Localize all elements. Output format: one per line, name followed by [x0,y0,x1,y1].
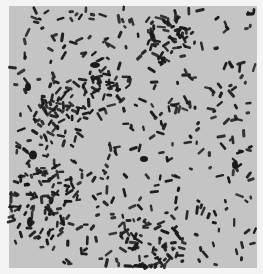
bacterium-rod [9,195,12,204]
bacterium-rod [44,209,47,215]
bacterium-rod [92,77,98,80]
bacterium-rod [71,115,74,122]
bacterium-rod [242,129,245,138]
bacteria-clump [25,83,31,91]
bacteria-clump [140,156,148,162]
bacterium-rod [62,217,65,226]
bacterium-rod [208,151,211,157]
bacterium-rod [98,257,103,260]
bacteria-clump [90,62,100,68]
bacterium-rod [42,180,51,183]
bacterium-rod [64,104,72,107]
bacterium-rod [25,226,32,229]
bacterium-rod [123,264,132,268]
bacterium-rod [19,112,22,117]
bacterium-rod [8,206,14,208]
bacterium-rod [126,219,132,222]
bacterium-rod [164,211,169,214]
bacterium-rod [40,167,46,170]
bacterium-rod [57,182,62,185]
micrograph-image [0,0,263,274]
bacterium-rod [233,218,235,227]
bacterium-rod [42,194,50,197]
bacterium-rod [195,140,198,145]
bacteria-clump [29,151,37,160]
bacterium-rod [152,24,155,31]
bacterium-rod [67,262,73,265]
bacteria-micrograph [0,0,263,274]
bacterium-rod [122,122,129,125]
bacterium-rod [110,213,115,216]
bacterium-rod [53,159,56,165]
bacterium-rod [66,239,69,246]
bacterium-rod [81,173,84,180]
bacterium-rod [84,6,87,13]
bacterium-rod [13,83,19,86]
bacteria-clump [232,161,238,169]
bacterium-rod [105,185,108,195]
bacterium-rod [171,142,173,146]
bacterium-rod [83,224,89,226]
bacterium-rod [147,29,150,34]
bacterium-rod [58,170,64,173]
bacterium-rod [86,236,89,246]
bacterium-rod [193,106,196,110]
bacterium-rod [177,254,185,257]
bacterium-rod [187,7,190,16]
bacterium-rod [150,80,159,83]
bacteria-clump [27,217,33,227]
